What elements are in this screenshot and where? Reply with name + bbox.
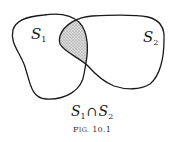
caption-smallcaps: IG. <box>79 126 90 134</box>
intersection-right-name: S <box>99 103 109 119</box>
intersection-right-subscript: 2 <box>108 112 113 121</box>
set-s1-name: S <box>31 25 41 43</box>
set-s2-name: S <box>143 28 153 46</box>
set-s2-label: S2 <box>143 30 158 47</box>
set-s2-subscript: 2 <box>153 38 158 47</box>
intersection-left-subscript: 1 <box>81 112 86 121</box>
intersection-left-name: S <box>71 103 81 119</box>
caption-number: 10.1 <box>92 125 111 134</box>
intersection-label: S1∩S2 <box>71 104 113 121</box>
figure-caption: FIG. 10.1 <box>73 125 111 134</box>
set-s1-subscript: 1 <box>41 35 46 44</box>
set-s1-label: S1 <box>31 27 46 44</box>
venn-diagram-figure: S1 S2 S1∩S2 FIG. 10.1 <box>0 0 177 142</box>
intersection-region <box>59 15 164 89</box>
intersection-operator: ∩ <box>87 104 98 119</box>
